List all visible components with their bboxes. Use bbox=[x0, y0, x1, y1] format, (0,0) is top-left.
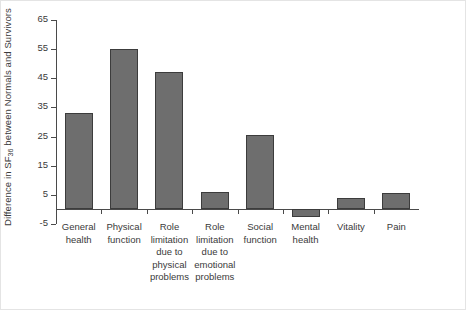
x-axis-tick-mark bbox=[283, 209, 284, 214]
x-axis-category-label: Role limitation due to emotional problem… bbox=[192, 221, 237, 284]
y-axis-tick-label: 25 bbox=[37, 130, 48, 141]
y-axis-title-subscript: 36 bbox=[7, 148, 14, 156]
x-axis-category-label: Pain bbox=[374, 221, 419, 234]
x-axis-category-label: Mental health bbox=[283, 221, 328, 246]
bar bbox=[110, 49, 138, 209]
y-axis-title-tail: between Normals and Survivors bbox=[2, 8, 13, 148]
y-axis-tick-mark bbox=[51, 195, 56, 196]
y-axis-tick-label: 55 bbox=[37, 42, 48, 53]
y-axis-tick-label: 45 bbox=[37, 71, 48, 82]
y-axis-tick-mark bbox=[51, 107, 56, 108]
y-axis-tick-label: -5 bbox=[40, 217, 48, 228]
y-axis-tick-label: 5 bbox=[43, 188, 48, 199]
bar bbox=[292, 209, 320, 216]
y-axis-tick-label: 35 bbox=[37, 100, 48, 111]
x-axis-tick-mark bbox=[328, 209, 329, 214]
y-axis-title-main: Difference in SF bbox=[2, 156, 13, 226]
x-axis-tick-mark bbox=[147, 209, 148, 214]
bar bbox=[201, 192, 229, 209]
x-axis-category-label: Social function bbox=[238, 221, 283, 246]
y-axis-line bbox=[56, 20, 57, 224]
x-axis-tick-mark bbox=[374, 209, 375, 214]
x-axis-category-label: General health bbox=[56, 221, 101, 246]
x-axis-category-label: Vitality bbox=[328, 221, 373, 234]
y-axis-tick-mark bbox=[51, 78, 56, 79]
x-axis-tick-mark bbox=[101, 209, 102, 214]
y-axis-tick-label: 65 bbox=[37, 13, 48, 24]
x-axis-category-label: Role limitation due to physical problems bbox=[147, 221, 192, 284]
bar bbox=[246, 135, 274, 209]
y-axis-tick-mark bbox=[51, 137, 56, 138]
x-axis-category-label: Physical function bbox=[101, 221, 146, 246]
plot-area: 6555453525155-5 bbox=[56, 20, 446, 224]
bar bbox=[155, 72, 183, 209]
y-axis-tick-mark bbox=[51, 49, 56, 50]
bar bbox=[65, 113, 93, 209]
bar bbox=[337, 198, 365, 210]
y-axis-tick-label: 15 bbox=[37, 159, 48, 170]
y-axis-tick-mark bbox=[51, 20, 56, 21]
bar bbox=[382, 193, 410, 209]
x-axis-tick-mark bbox=[238, 209, 239, 214]
y-axis-title: Difference in SF36 between Normals and S… bbox=[2, 2, 18, 232]
y-axis-tick-mark bbox=[51, 166, 56, 167]
x-axis-tick-mark bbox=[192, 209, 193, 214]
chart-figure: Difference in SF36 between Normals and S… bbox=[0, 0, 466, 310]
